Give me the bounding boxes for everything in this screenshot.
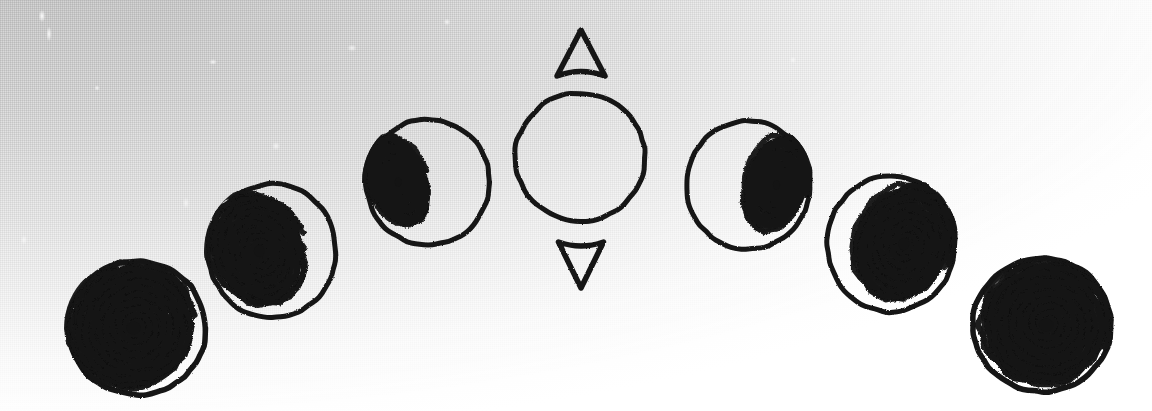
ink-drawing-layer <box>0 0 1152 411</box>
hand-drawn-figure-svg <box>0 0 1152 411</box>
phase-circle-7 <box>973 258 1111 392</box>
arrow-down-icon <box>559 242 604 288</box>
arrow-up-icon <box>557 30 605 76</box>
circle-outline <box>515 94 645 222</box>
phase-circle-3 <box>363 119 490 245</box>
circle-shading-spiral <box>977 259 1110 385</box>
phase-circle-1 <box>66 261 206 395</box>
phase-circle-2 <box>205 183 336 317</box>
phase-circle-4 <box>515 94 645 222</box>
arrows-group <box>557 30 605 288</box>
phase-circle-5 <box>687 121 810 250</box>
drawing-canvas <box>0 0 1152 411</box>
phase-circle-6 <box>827 176 955 313</box>
circle-shading-spiral <box>66 262 195 388</box>
circle-shading-spiral <box>852 184 955 300</box>
